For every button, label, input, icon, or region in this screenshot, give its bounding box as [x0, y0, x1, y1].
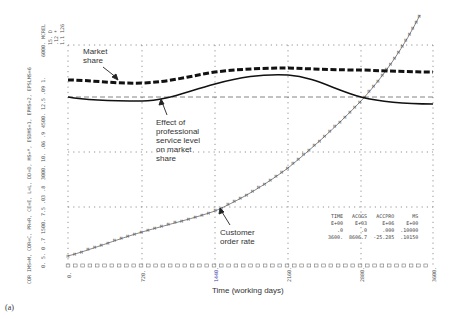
svg-text:M: M [338, 120, 341, 125]
table-cell: .0 [322, 227, 343, 234]
x-tick-1440: 1440. [213, 267, 219, 282]
table-header: TIME [322, 213, 343, 220]
y-tick-0: 0. 5. 0 .7 [40, 238, 46, 268]
svg-text:M: M [167, 222, 170, 227]
table-cell: .000 [367, 227, 394, 234]
svg-text:M: M [404, 38, 407, 43]
svg-text:M: M [372, 84, 375, 89]
table-row: 3600. 8606.7 -25.285 .10150 [322, 234, 418, 241]
table-cell: .10150 [394, 234, 418, 241]
annotation-effect: Effect of professional service level on … [156, 118, 200, 163]
svg-text:M: M [358, 100, 361, 105]
svg-text:M: M [146, 228, 149, 233]
svg-text:M: M [302, 152, 305, 157]
x-tick-2160: 2160. [286, 267, 292, 282]
table-cell: E+06 [367, 220, 394, 227]
svg-text:M: M [328, 129, 331, 134]
table-cell: E+03 [343, 220, 367, 227]
table-cell: E+00 [394, 220, 418, 227]
svg-text:M: M [323, 134, 326, 139]
x-axis-label: Time (working days) [212, 286, 284, 295]
svg-text:M: M [377, 79, 380, 84]
annotation-order-rate: Customer order rate [220, 228, 255, 246]
table-row: .0 .0 .000 .10000 [322, 227, 418, 234]
svg-text:M: M [126, 234, 129, 239]
x-tick-2880: 2880. [359, 267, 365, 282]
x-tick-0: 0. [66, 272, 72, 278]
figure-label: (a) [5, 303, 14, 312]
svg-text:M: M [353, 105, 356, 110]
svg-text:M: M [251, 189, 254, 194]
svg-text:M: M [307, 148, 310, 153]
x-tick-720: 720. [140, 270, 146, 282]
summary-table: TIME ACOGS ACCPRO MS E+00 E+03 E+06 E+00… [322, 213, 418, 241]
table-cell: .0 [343, 227, 367, 234]
svg-text:M: M [263, 182, 266, 187]
svg-text:M: M [348, 110, 351, 115]
svg-text:M: M [393, 56, 396, 61]
svg-text:M: M [286, 166, 289, 171]
y-axis-legend: COR IMS=M, COR=C, PR=R, CE=E, L=L, DD=D,… [26, 67, 32, 284]
svg-text:M: M [120, 236, 123, 241]
svg-text:M: M [226, 202, 229, 207]
svg-text:M: M [418, 14, 421, 19]
y-axis-header-1: 6000. MCREL [40, 24, 46, 57]
svg-text:M: M [187, 217, 190, 222]
svg-text:M: M [415, 20, 418, 25]
svg-text:M: M [133, 232, 136, 237]
y-tick-4500: 4500. 12.5 .09 1. [40, 77, 46, 128]
svg-text:M: M [93, 245, 96, 250]
table-header-row: TIME ACOGS ACCPRO MS [322, 213, 418, 220]
table-cell: .10000 [394, 227, 418, 234]
svg-text:M: M [73, 252, 76, 257]
svg-text:M: M [214, 208, 217, 213]
y-tick-1500: 1500. 7.5 .03 .8 [40, 186, 46, 234]
svg-text:M: M [233, 199, 236, 204]
table-cell: 3600. [322, 234, 343, 241]
svg-text:M: M [160, 224, 163, 229]
svg-text:M: M [313, 143, 316, 148]
svg-text:M: M [397, 50, 400, 55]
table-cell: E+00 [322, 220, 343, 227]
table-header: ACCPRO [367, 213, 394, 220]
svg-text:M: M [245, 193, 248, 198]
svg-text:M: M [275, 174, 278, 179]
svg-text:M: M [173, 220, 176, 225]
table-cell: -25.285 [367, 234, 394, 241]
x-axis-marker-row [66, 264, 427, 267]
table-header: MS [394, 213, 418, 220]
svg-text:M: M [80, 250, 83, 255]
svg-text:M: M [389, 62, 392, 67]
svg-text:M: M [269, 178, 272, 183]
svg-text:M: M [239, 196, 242, 201]
svg-text:M: M [408, 32, 411, 37]
table-header: ACOGS [343, 213, 367, 220]
svg-text:M: M [140, 230, 143, 235]
svg-text:M: M [87, 247, 90, 252]
svg-text:M: M [180, 219, 183, 224]
y-tick-3000: 3000. 10. .06 .9 [40, 132, 46, 180]
svg-text:M: M [411, 26, 414, 31]
annotation-market-share: Market share [83, 47, 107, 65]
svg-text:M: M [200, 213, 203, 218]
svg-text:M: M [194, 215, 197, 220]
svg-text:M: M [333, 124, 336, 129]
svg-text:M: M [106, 241, 109, 246]
svg-text:M: M [153, 226, 156, 231]
svg-text:M: M [291, 161, 294, 166]
table-units-row: E+00 E+03 E+06 E+00 [322, 220, 418, 227]
table-cell: 8606.7 [343, 234, 367, 241]
svg-text:M: M [67, 254, 70, 259]
y-axis-header-4: 1.1 126 [59, 24, 65, 45]
x-tick-3600: 3600. [431, 267, 437, 282]
svg-text:M: M [368, 89, 371, 94]
svg-text:M: M [401, 44, 404, 49]
svg-text:M: M [100, 243, 103, 248]
svg-text:M: M [297, 157, 300, 162]
svg-text:M: M [280, 170, 283, 175]
svg-text:M: M [257, 185, 260, 190]
svg-text:M: M [207, 211, 210, 216]
svg-text:M: M [381, 73, 384, 78]
svg-text:M: M [343, 115, 346, 120]
svg-text:M: M [318, 139, 321, 144]
